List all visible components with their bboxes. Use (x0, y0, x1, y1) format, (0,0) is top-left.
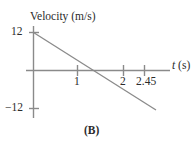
x-tick-label-1: 1 (74, 76, 80, 88)
x-axis-title: t (s) (172, 60, 190, 72)
panel-caption: (B) (84, 125, 99, 137)
x-tick-label-2: 2 (120, 76, 126, 88)
plot-canvas (0, 0, 193, 144)
y-axis-title: Velocity (m/s) (30, 11, 95, 23)
x-axis-unit: (s) (178, 59, 190, 71)
velocity-data-line (34, 33, 157, 111)
x-tick-label-245: 2.45 (136, 76, 156, 88)
y-tick-label-12: 12 (11, 26, 23, 38)
velocity-time-figure: Velocity (m/s) t (s) 12 −12 1 2 2.45 (B) (0, 0, 193, 144)
x-axis-symbol: t (172, 59, 175, 71)
y-tick-label-neg12: −12 (5, 102, 23, 114)
